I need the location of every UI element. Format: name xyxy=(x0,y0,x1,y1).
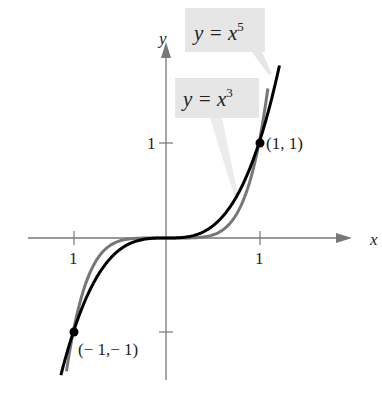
curve-x5 xyxy=(66,88,267,371)
curve-x5-label-pointer xyxy=(252,52,272,74)
x-tick-label-pos: 1 xyxy=(255,249,264,268)
function-plot: x y 1 1 1 (1, 1) (− 1,− 1) y = x5 y = x3 xyxy=(0,0,382,407)
curve-x5-label: y = x5 xyxy=(192,19,244,45)
curve-x3-label: y = x3 xyxy=(181,85,233,111)
point-label-pos: (1, 1) xyxy=(266,134,303,153)
y-axis-label: y xyxy=(157,29,167,48)
point-label-neg: (− 1,− 1) xyxy=(78,340,138,359)
point-1-1 xyxy=(256,139,265,148)
x-axis-label: x xyxy=(369,230,378,249)
y-tick-label-pos: 1 xyxy=(147,134,156,153)
x-tick-label-neg: 1 xyxy=(69,249,78,268)
x-axis-arrow-icon xyxy=(336,233,352,243)
curve-x3-label-pointer xyxy=(210,118,238,195)
point-neg1-neg1 xyxy=(70,328,79,337)
